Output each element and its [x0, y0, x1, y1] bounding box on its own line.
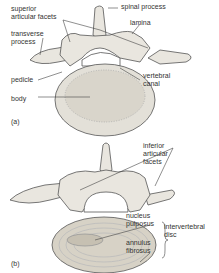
label-nucleus-pulposus: nucleus pulposus — [126, 212, 154, 228]
label-inferior-articular-facets: inferior articular facets — [143, 142, 168, 166]
label-vertebral-canal: vertebral canal — [143, 72, 170, 88]
label-transverse-process: transverse process — [11, 30, 44, 46]
label-lamina: lamina — [130, 19, 151, 27]
panel-tag-a: (a) — [11, 118, 20, 126]
vertebra-a — [30, 6, 191, 136]
label-intervertebral-disc: intervertebral disc — [164, 223, 205, 239]
panel-tag-b: (b) — [11, 260, 20, 268]
label-annulus-fibrosus: annulus fibrosus — [126, 239, 151, 255]
label-body: body — [11, 95, 26, 103]
label-pedicle: pedicle — [11, 76, 33, 84]
label-spinal-process: spinal process — [121, 3, 166, 11]
label-superior-articular-facets: superior articular facets — [11, 5, 57, 21]
